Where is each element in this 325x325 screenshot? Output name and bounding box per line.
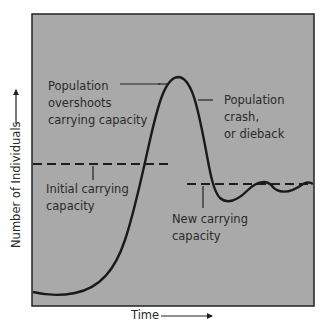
population-overshoot-diagram: Population overshoots carrying capacity … — [0, 0, 325, 325]
y-axis-label: Number of Individuals — [9, 121, 23, 248]
x-axis-label: Time — [130, 308, 159, 322]
plot-area — [32, 14, 314, 306]
